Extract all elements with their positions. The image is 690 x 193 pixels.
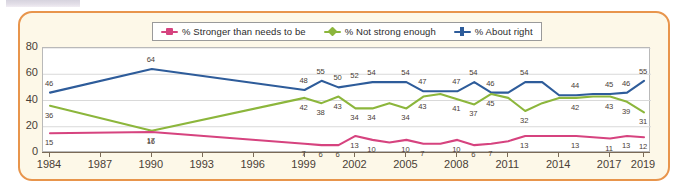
data-point-label: 37 (469, 109, 477, 118)
legend-label-about-right: % About right (475, 26, 533, 37)
series-line-1 (50, 94, 644, 131)
data-point-label: 38 (316, 108, 324, 117)
x-tick-label: 1993 (189, 158, 213, 170)
data-point-label: 13 (571, 140, 579, 149)
data-point-label: 36 (45, 110, 53, 119)
data-point-label: 42 (299, 102, 307, 111)
data-point-label: 46 (622, 78, 630, 87)
cross-marker-icon (454, 27, 471, 36)
data-point-label: 13 (350, 140, 358, 149)
chart-screenshot: % Stronger than needs to be % Not strong… (0, 0, 690, 193)
x-tick (558, 152, 559, 157)
plot-area (42, 47, 650, 152)
x-tick-label: 1999 (291, 158, 315, 170)
data-point-label: 45 (605, 79, 613, 88)
data-point-label: 6 (335, 150, 339, 159)
x-tick (643, 152, 644, 157)
x-tick (100, 152, 101, 157)
data-point-label: 54 (520, 68, 528, 77)
data-point-label: 45 (486, 98, 494, 107)
data-point-label: 11 (605, 143, 613, 152)
x-tick (354, 152, 355, 157)
x-tick-label: 2019 (631, 158, 655, 170)
x-tick (609, 152, 610, 157)
data-point-label: 46 (486, 78, 494, 87)
y-tick-label: 20 (16, 119, 38, 131)
x-tick-label: 2002 (342, 158, 366, 170)
data-point-label: 34 (350, 113, 358, 122)
data-point-label: 64 (147, 55, 155, 64)
scan-artifact (6, 0, 80, 7)
data-point-label: 16 (147, 137, 155, 146)
data-point-label: 13 (622, 140, 630, 149)
series-line-2 (50, 132, 644, 145)
x-tick (507, 152, 508, 157)
y-tick-label: 40 (16, 93, 38, 105)
data-point-label: 7 (302, 148, 306, 157)
legend-item-about-right[interactable]: % About right (454, 26, 533, 37)
data-point-label: 39 (622, 106, 630, 115)
x-tick-label: 1987 (88, 158, 112, 170)
diamond-marker-icon (324, 27, 341, 36)
data-point-label: 6 (318, 150, 322, 159)
x-tick (202, 152, 203, 157)
data-point-label: 43 (605, 101, 613, 110)
y-tick-label: 60 (16, 66, 38, 78)
data-point-label: 43 (333, 101, 341, 110)
x-tick-label: 2011 (495, 158, 519, 170)
data-point-label: 34 (367, 113, 375, 122)
data-point-label: 42 (571, 102, 579, 111)
data-point-label: 31 (639, 117, 647, 126)
x-tick (253, 152, 254, 157)
x-tick-label: 1996 (240, 158, 264, 170)
series-line-0 (50, 69, 644, 95)
data-point-label: 48 (299, 76, 307, 85)
data-point-label: 55 (316, 66, 324, 75)
data-point-label: 7 (420, 148, 424, 157)
data-point-label: 46 (45, 78, 53, 87)
data-point-label: 32 (520, 116, 528, 125)
legend-item-not-strong[interactable]: % Not strong enough (324, 26, 436, 37)
data-point-label: 13 (520, 140, 528, 149)
data-point-label: 55 (639, 66, 647, 75)
data-point-label: 41 (452, 104, 460, 113)
data-point-label: 10 (452, 144, 460, 153)
data-point-label: 10 (367, 144, 375, 153)
data-point-label: 43 (418, 101, 426, 110)
legend-label-not-strong: % Not strong enough (345, 26, 436, 37)
x-tick-label: 2014 (546, 158, 570, 170)
data-point-label: 52 (350, 70, 358, 79)
x-tick-label: 2008 (444, 158, 468, 170)
data-point-label: 34 (401, 113, 409, 122)
y-axis: 020406080 (14, 47, 38, 152)
legend-item-stronger[interactable]: % Stronger than needs to be (161, 26, 306, 37)
square-marker-icon (161, 27, 178, 36)
chart-legend: % Stronger than needs to be % Not strong… (152, 22, 542, 41)
y-tick-label: 80 (16, 40, 38, 52)
y-tick-label: 0 (16, 145, 38, 157)
data-point-label: 12 (639, 142, 647, 151)
x-tick (49, 152, 50, 157)
x-tick-label: 2005 (393, 158, 417, 170)
x-tick-label: 1990 (139, 158, 163, 170)
x-tick-label: 1984 (37, 158, 61, 170)
data-point-label: 10 (401, 144, 409, 153)
data-point-label: 6 (471, 150, 475, 159)
data-point-label: 15 (45, 138, 53, 147)
data-point-label: 54 (401, 68, 409, 77)
data-point-label: 50 (333, 73, 341, 82)
data-point-label: 54 (367, 68, 375, 77)
plot-svg (43, 48, 651, 153)
data-point-label: 54 (469, 68, 477, 77)
data-point-label: 44 (571, 81, 579, 90)
x-tick-label: 2017 (597, 158, 621, 170)
x-tick (151, 152, 152, 157)
data-point-label: 47 (452, 77, 460, 86)
data-point-label: 7 (488, 148, 492, 157)
legend-label-stronger: % Stronger than needs to be (182, 26, 306, 37)
data-point-label: 47 (418, 77, 426, 86)
